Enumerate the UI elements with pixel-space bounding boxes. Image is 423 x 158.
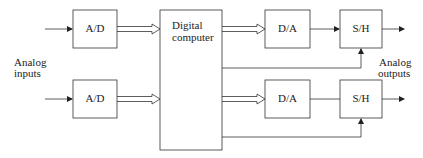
da-top-label: D/A — [265, 22, 310, 34]
ad-bottom-label: A/D — [73, 92, 117, 104]
computer-label-line2: computer — [172, 31, 214, 43]
computer-label-line1: Digital — [172, 19, 203, 31]
sh-top-label: S/H — [340, 22, 382, 34]
analog-inputs-label-line2: inputs — [14, 67, 41, 79]
analog-outputs-label-line2: outputs — [378, 67, 410, 79]
sh-bottom-label: S/H — [340, 92, 382, 104]
ad-top-label: A/D — [73, 22, 117, 34]
diagram-canvas: A/D A/D Digital computer D/A D/A S/H S/H… — [0, 0, 423, 158]
da-bottom-label: D/A — [265, 92, 310, 104]
